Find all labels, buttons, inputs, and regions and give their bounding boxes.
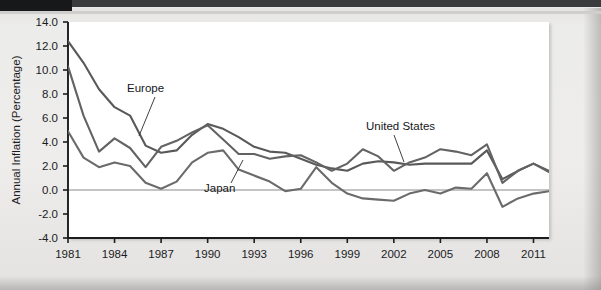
series-label-japan: Japan <box>204 182 235 194</box>
scanned-page: 14.012.010.08.06.04.02.00.0-2.0-4.0 1981… <box>0 0 601 290</box>
x-tick-label: 1984 <box>102 248 128 260</box>
y-tick-label: -4.0 <box>38 232 58 244</box>
y-tick-label: 2.0 <box>42 160 58 172</box>
x-tick-label: 1990 <box>195 248 221 260</box>
series-line-japan <box>68 131 549 207</box>
x-tick-label: 2005 <box>428 248 454 260</box>
x-tick-label: 2011 <box>521 248 546 260</box>
y-axis-title: Annual Inflation (Percentage) <box>10 55 22 204</box>
y-tick-label: 14.0 <box>36 16 58 28</box>
x-tick-label: 1999 <box>334 248 360 260</box>
y-tick-label: 0.0 <box>42 184 58 196</box>
data-series-lines <box>68 41 549 207</box>
x-tick-label: 2002 <box>381 248 407 260</box>
y-tick-label: -2.0 <box>38 208 58 220</box>
series-label-united-states: United States <box>366 120 435 132</box>
series-label-europe: Europe <box>127 82 164 94</box>
x-tick-label: 1996 <box>288 248 314 260</box>
x-tick-label: 1981 <box>55 248 81 260</box>
x-tick-label: 2008 <box>474 248 500 260</box>
y-tick-label: 12.0 <box>36 40 58 52</box>
y-tick-label: 10.0 <box>36 64 58 76</box>
leader-line-europe <box>139 97 155 136</box>
series-inline-labels: EuropeJapanUnited States <box>127 82 435 194</box>
x-axis-tick-labels: 1981198419871990199319961999200220052008… <box>55 248 546 260</box>
y-tick-label: 4.0 <box>42 136 58 148</box>
x-tick-label: 1993 <box>241 248 267 260</box>
y-axis-tick-labels: 14.012.010.08.06.04.02.00.0-2.0-4.0 <box>36 16 58 244</box>
leader-line-united-states <box>394 135 404 162</box>
y-tick-label: 6.0 <box>42 112 58 124</box>
inflation-line-chart: 14.012.010.08.06.04.02.00.0-2.0-4.0 1981… <box>0 0 601 290</box>
y-tick-label: 8.0 <box>42 88 58 100</box>
x-tick-label: 1987 <box>148 248 174 260</box>
